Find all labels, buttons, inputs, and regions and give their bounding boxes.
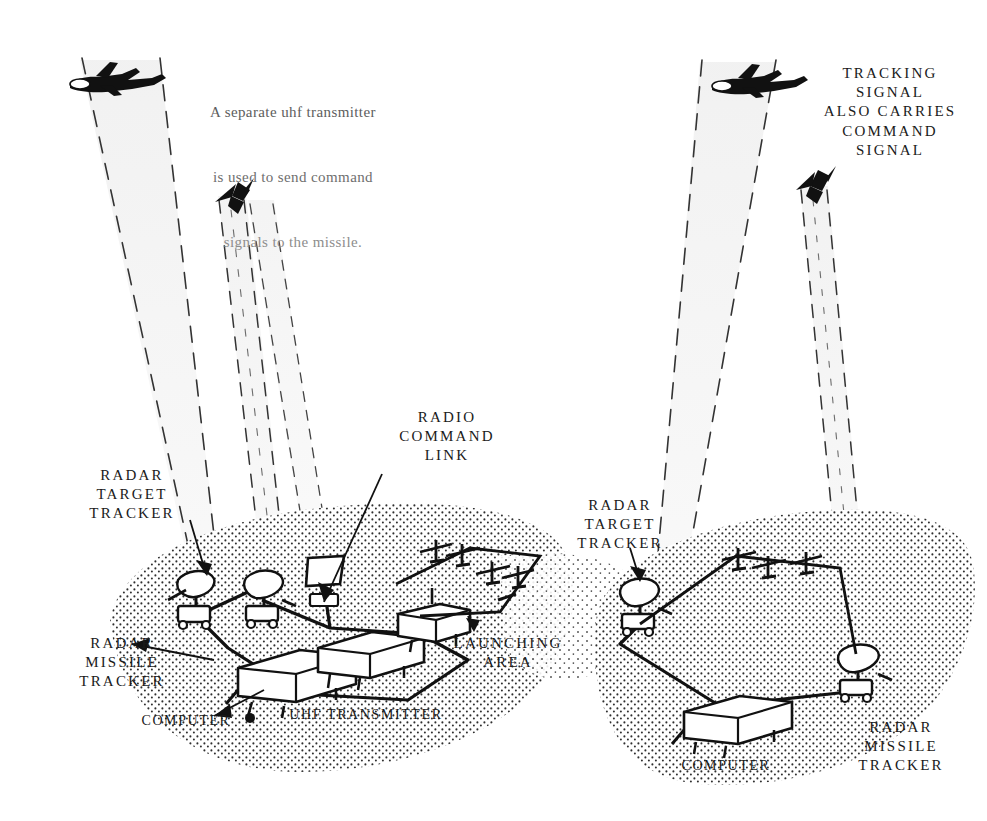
note-line-1: A separate uhf transmitter (193, 102, 393, 124)
label-launching-area: LAUNCHING AREA (438, 634, 578, 672)
label-right-radar-target-tracker: RADAR TARGET TRACKER (540, 496, 700, 554)
label-left-computer: COMPUTER (116, 712, 256, 730)
right-panel-group (595, 60, 975, 785)
label-left-radar-target-tracker: RADAR TARGET TRACKER (52, 466, 212, 524)
label-radio-command-link: RADIO COMMAND LINK (382, 408, 512, 466)
label-left-radar-missile-tracker: RADAR MISSILE TRACKER (42, 634, 202, 692)
label-right-radar-missile-tracker: RADAR MISSILE TRACKER (826, 718, 976, 776)
diagram-canvas: A separate uhf transmitter is used to se… (0, 0, 987, 821)
label-uhf-transmitter: UHF TRANSMITTER (266, 706, 466, 724)
note-line-3: signals to the missile. (193, 232, 393, 254)
label-tracking-signal-note: TRACKING SIGNAL ALSO CARRIES COMMAND SIG… (800, 64, 980, 160)
note-line-2: is used to send command (193, 167, 393, 189)
label-right-computer: COMPUTER (646, 757, 806, 775)
uhf-explanatory-note: A separate uhf transmitter is used to se… (193, 58, 393, 297)
